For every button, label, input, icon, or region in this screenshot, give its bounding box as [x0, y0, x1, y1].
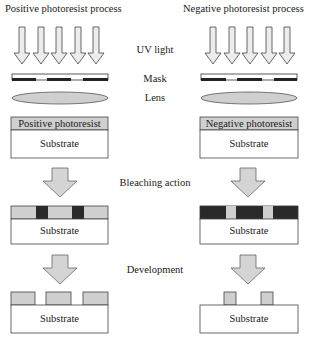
substrate-label-left-2: Substrate — [11, 226, 108, 237]
uv-light-arrows-right — [205, 27, 295, 64]
substrate-label-right-2: Substrate — [200, 226, 298, 237]
substrate-label-right-1: Substrate — [200, 139, 298, 150]
process-arrow-bleaching-right — [231, 168, 265, 197]
process-arrow-development-left — [43, 255, 77, 284]
process-arrow-bleaching-left — [43, 168, 77, 197]
uv-light-arrows-left — [14, 27, 104, 64]
substrate-label-left-3: Substrate — [11, 314, 108, 325]
negative-photoresist-label: Negative photoresist — [200, 119, 298, 130]
lens-right — [201, 92, 297, 104]
mask-left — [12, 74, 108, 81]
photoresist-diagram — [0, 0, 311, 343]
process-arrow-development-right — [231, 255, 265, 284]
positive-photoresist-label: Positive photoresist — [11, 119, 108, 130]
substrate-label-right-3: Substrate — [200, 314, 298, 325]
lens-left — [12, 92, 108, 104]
substrate-label-left-1: Substrate — [11, 139, 108, 150]
mask-right — [201, 74, 297, 81]
